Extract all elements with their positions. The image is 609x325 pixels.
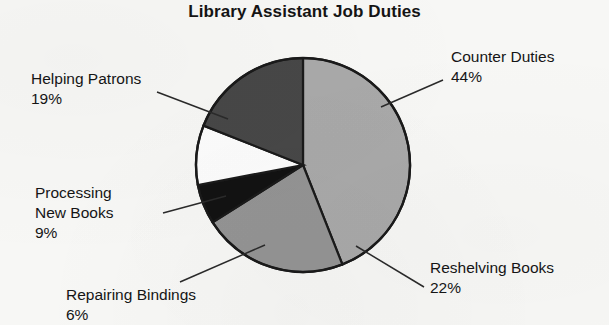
slice-label-processing-new-books-name: Processing	[35, 184, 112, 201]
slice-label-helping-patrons-value: 19%	[31, 89, 141, 109]
slice-label-processing-new-books-name2: New Books	[35, 203, 113, 223]
leader-line-repairing-bindings	[180, 245, 265, 282]
slice-label-processing-new-books: Processing New Books 9%	[35, 183, 113, 243]
slice-label-helping-patrons: Helping Patrons 19%	[31, 69, 141, 109]
leader-line-reshelving-books	[356, 246, 424, 287]
slice-label-counter-duties: Counter Duties 44%	[451, 47, 554, 87]
slice-label-counter-duties-name: Counter Duties	[451, 48, 554, 65]
leader-line-counter-duties	[381, 80, 443, 107]
slice-label-repairing-bindings: Repairing Bindings 6%	[66, 285, 196, 325]
slice-label-reshelving-books: Reshelving Books 22%	[430, 258, 554, 298]
slice-label-helping-patrons-name: Helping Patrons	[31, 70, 141, 87]
slice-label-repairing-bindings-name: Repairing Bindings	[66, 286, 196, 303]
slice-label-reshelving-books-name: Reshelving Books	[430, 259, 554, 276]
slice-label-repairing-bindings-value: 6%	[66, 305, 196, 325]
slice-label-processing-new-books-value: 9%	[35, 223, 113, 243]
slice-label-counter-duties-value: 44%	[451, 67, 554, 87]
slice-label-reshelving-books-value: 22%	[430, 278, 554, 298]
